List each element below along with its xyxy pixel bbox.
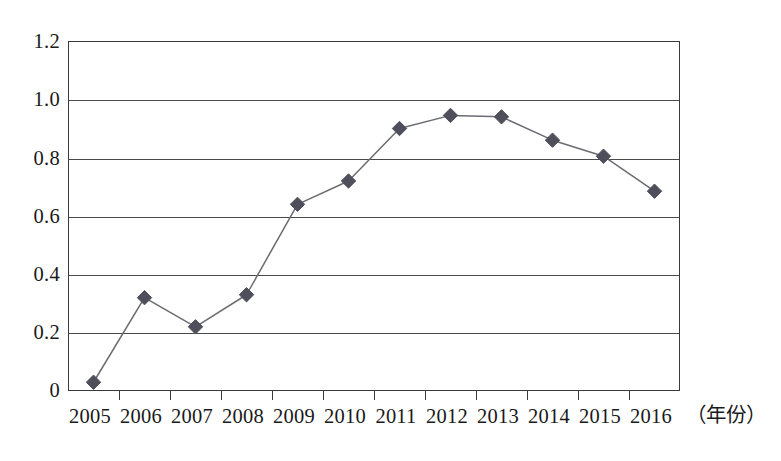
y-tick-label: 0 xyxy=(49,380,60,401)
y-tick-label: 0.2 xyxy=(33,322,60,343)
gridline-0.2 xyxy=(69,333,679,334)
y-tick-label: 1.2 xyxy=(33,31,60,52)
y-tick-label: 0.4 xyxy=(33,264,60,285)
x-tick-mark xyxy=(425,391,426,400)
plot-area xyxy=(68,41,680,391)
gridline-0.8 xyxy=(69,159,679,160)
x-tick-mark xyxy=(527,391,528,400)
gridline-0.4 xyxy=(69,275,679,276)
x-tick-mark xyxy=(221,391,222,400)
y-tick-label: 1.0 xyxy=(33,89,60,110)
x-tick-mark xyxy=(374,391,375,400)
x-tick-mark xyxy=(629,391,630,400)
y-tick-label: 0.6 xyxy=(33,206,60,227)
y-tick-label: 0.8 xyxy=(33,148,60,169)
x-tick-mark xyxy=(476,391,477,400)
x-tick-label: 2016 xyxy=(612,404,690,429)
x-tick-mark xyxy=(170,391,171,400)
x-axis-title: （年份） xyxy=(686,403,766,428)
x-tick-mark xyxy=(272,391,273,400)
x-axis-labels: 2005 2006 2007 2008 2009 2010 2011 2012 … xyxy=(0,404,781,438)
gridline-0.6 xyxy=(69,217,679,218)
x-tick-mark xyxy=(119,391,120,400)
y-axis-labels: 1.2 1.0 0.8 0.6 0.4 0.2 0 xyxy=(0,0,60,461)
line-chart: 1.2 1.0 0.8 0.6 0.4 0.2 0 2005 2006 xyxy=(0,0,781,461)
gridline-1.0 xyxy=(69,100,679,101)
x-tick-mark xyxy=(578,391,579,400)
x-tick-mark xyxy=(323,391,324,400)
